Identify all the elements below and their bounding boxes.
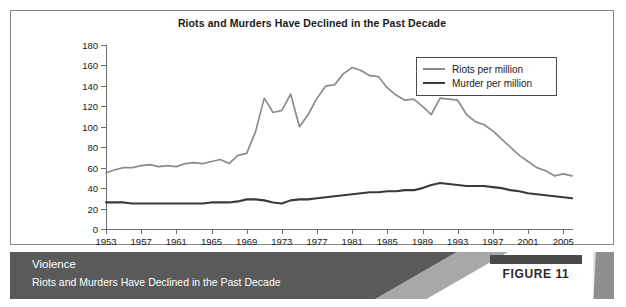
figure-footer-band: Violence Riots and Murders Have Declined… <box>10 252 614 299</box>
x-axis-tick-mark <box>458 229 459 234</box>
x-axis-tick-mark <box>141 229 142 234</box>
figure-number-label: FIGURE 11 <box>490 267 582 281</box>
legend-item-murder: Murder per million <box>423 76 550 90</box>
legend-line-murder-icon <box>423 82 445 84</box>
x-axis-tick-label: 1985 <box>377 236 398 247</box>
x-axis-tick-label: 1965 <box>201 236 222 247</box>
y-axis-tick-label: 180 <box>46 40 106 51</box>
y-axis-tick-label: 100 <box>46 121 106 132</box>
x-axis-tick-mark <box>563 229 564 234</box>
y-axis-tick-label: 160 <box>46 60 106 71</box>
x-axis-tick-label: 1973 <box>271 236 292 247</box>
x-axis-tick-mark <box>493 229 494 234</box>
x-axis-tick-label: 1961 <box>166 236 187 247</box>
legend-label-riots: Riots per million <box>452 64 523 75</box>
figure-bar-decoration <box>490 255 582 264</box>
x-axis-tick-mark <box>176 229 177 234</box>
x-axis-tick-label: 1957 <box>131 236 152 247</box>
x-axis-tick-mark <box>423 229 424 234</box>
chart-title: Riots and Murders Have Declined in the P… <box>11 17 613 29</box>
y-axis-tick-label: 60 <box>46 162 106 173</box>
x-axis-tick-label: 1989 <box>412 236 433 247</box>
legend-label-murder: Murder per million <box>452 78 532 89</box>
series-line-murder <box>106 183 572 203</box>
figure-container: Riots and Murders Have Declined in the P… <box>0 0 626 307</box>
x-axis-tick-label: 1997 <box>482 236 503 247</box>
y-axis-tick-label: 120 <box>46 101 106 112</box>
x-axis-tick-label: 2001 <box>517 236 538 247</box>
footer-edge-accent <box>593 252 614 299</box>
x-axis-tick-mark <box>212 229 213 234</box>
x-axis-tick-mark <box>528 229 529 234</box>
x-axis-tick-mark <box>352 229 353 234</box>
x-axis-tick-mark <box>387 229 388 234</box>
x-axis-tick-mark <box>247 229 248 234</box>
chart-panel: Riots and Murders Have Declined in the P… <box>10 10 614 245</box>
x-axis-tick-label: 1977 <box>306 236 327 247</box>
x-axis-tick-label: 1981 <box>342 236 363 247</box>
y-axis-tick-label: 40 <box>46 183 106 194</box>
legend-item-riots: Riots per million <box>423 62 550 76</box>
footer-subtitle: Riots and Murders Have Declined in the P… <box>32 276 281 288</box>
y-axis-tick-label: 20 <box>46 203 106 214</box>
x-axis-tick-mark <box>317 229 318 234</box>
x-axis-tick-label: 1993 <box>447 236 468 247</box>
x-axis-tick-mark <box>106 229 107 234</box>
figure-number-block: FIGURE 11 <box>490 255 582 281</box>
y-axis-tick-label: 0 <box>46 224 106 235</box>
x-axis-tick-label: 1953 <box>95 236 116 247</box>
y-axis-tick-label: 80 <box>46 142 106 153</box>
footer-title: Violence <box>32 258 76 270</box>
y-axis-tick-label: 140 <box>46 80 106 91</box>
x-axis-tick-label: 2005 <box>553 236 574 247</box>
x-axis-tick-mark <box>282 229 283 234</box>
chart-legend: Riots per million Murder per million <box>416 57 557 96</box>
x-axis-tick-label: 1969 <box>236 236 257 247</box>
legend-line-riots-icon <box>423 68 445 70</box>
